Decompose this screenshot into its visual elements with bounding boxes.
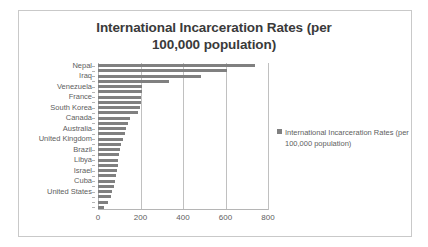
bar bbox=[98, 153, 119, 156]
y-axis-tick bbox=[92, 129, 95, 130]
bar-row bbox=[98, 184, 268, 189]
y-axis-tick bbox=[92, 134, 95, 135]
legend-item: International Incarceration Rates (per 1… bbox=[277, 127, 409, 149]
bar bbox=[98, 122, 128, 125]
bar bbox=[98, 75, 201, 78]
bar-row bbox=[98, 121, 268, 126]
bar-row bbox=[98, 158, 268, 163]
bar bbox=[98, 195, 111, 198]
chart-legend: International Incarceration Rates (per 1… bbox=[277, 127, 409, 149]
y-axis-label: United States bbox=[47, 188, 92, 196]
bar-row bbox=[98, 105, 268, 110]
y-axis-tick bbox=[92, 186, 95, 187]
bar-row bbox=[98, 168, 268, 173]
bar bbox=[98, 159, 118, 162]
bar-row bbox=[98, 110, 268, 115]
bar bbox=[98, 64, 255, 67]
bar-row bbox=[98, 79, 268, 84]
y-axis-tick bbox=[92, 207, 95, 208]
bar-row bbox=[98, 100, 268, 105]
bar-row bbox=[98, 74, 268, 79]
y-axis-label: Venezuela bbox=[57, 83, 92, 91]
bar bbox=[98, 169, 117, 172]
bar bbox=[98, 69, 227, 72]
bar-row bbox=[98, 200, 268, 205]
bar-row bbox=[98, 131, 268, 136]
y-axis-tick bbox=[92, 144, 95, 145]
bar-row bbox=[98, 152, 268, 157]
bar bbox=[98, 206, 104, 209]
x-axis-tick-label: 600 bbox=[219, 213, 232, 222]
y-axis-tick bbox=[92, 123, 95, 124]
y-axis-label: Israel bbox=[74, 167, 92, 175]
bar bbox=[98, 138, 123, 141]
bar bbox=[98, 164, 118, 167]
y-axis-tick bbox=[92, 155, 95, 156]
bar-row bbox=[98, 126, 268, 131]
chart-title: International Incarceration Rates (per 1… bbox=[49, 19, 379, 53]
x-axis-tick-label: 800 bbox=[261, 213, 274, 222]
bar-row bbox=[98, 68, 268, 73]
bar-row bbox=[98, 142, 268, 147]
x-axis-tick-label: 400 bbox=[176, 213, 189, 222]
y-axis-tick bbox=[92, 192, 95, 193]
bar bbox=[98, 174, 116, 177]
bar-row bbox=[98, 116, 268, 121]
y-axis-tick bbox=[92, 181, 95, 182]
bar-row bbox=[98, 147, 268, 152]
bar bbox=[98, 148, 120, 151]
bar bbox=[98, 90, 142, 93]
bar-row bbox=[98, 137, 268, 142]
y-axis-tick bbox=[92, 171, 95, 172]
y-axis-label: Iraq bbox=[79, 72, 92, 80]
bar bbox=[98, 143, 121, 146]
y-axis-label: Australia bbox=[63, 125, 92, 133]
bar bbox=[98, 185, 114, 188]
bar bbox=[98, 201, 108, 204]
y-axis-tick bbox=[92, 165, 95, 166]
bar-row bbox=[98, 189, 268, 194]
bar-row bbox=[98, 194, 268, 199]
y-axis-tick bbox=[92, 92, 95, 93]
bar bbox=[98, 111, 138, 114]
bar bbox=[98, 85, 142, 88]
legend-swatch-icon bbox=[277, 129, 282, 134]
bar bbox=[98, 190, 112, 193]
y-axis-tick bbox=[92, 160, 95, 161]
bar-row bbox=[98, 163, 268, 168]
y-axis-label: South Korea bbox=[50, 104, 92, 112]
y-axis-tick bbox=[92, 197, 95, 198]
chart-screenshot: International Incarceration Rates (per 1… bbox=[0, 0, 428, 247]
bar-row bbox=[98, 179, 268, 184]
y-axis-tick bbox=[92, 87, 95, 88]
y-axis-tick bbox=[92, 102, 95, 103]
y-axis-tick bbox=[92, 113, 95, 114]
bar-row bbox=[98, 63, 268, 68]
y-axis-tick bbox=[92, 202, 95, 203]
y-axis-label: United Kingdom bbox=[39, 135, 92, 143]
x-axis-tick-label: 0 bbox=[96, 213, 100, 222]
y-axis-label: Canada bbox=[66, 114, 92, 122]
y-axis-label: Nepal bbox=[72, 62, 92, 70]
y-axis-tick bbox=[92, 71, 95, 72]
x-axis-tick-label: 200 bbox=[134, 213, 147, 222]
y-axis-label: Brazil bbox=[73, 146, 92, 154]
y-axis-tick bbox=[92, 118, 95, 119]
y-axis-label: France bbox=[69, 93, 92, 101]
bar bbox=[98, 80, 169, 83]
chart-title-line-1: International Incarceration Rates (per bbox=[49, 19, 379, 36]
bar bbox=[98, 96, 141, 99]
bar-row bbox=[98, 89, 268, 94]
y-axis-tick bbox=[92, 108, 95, 109]
bar bbox=[98, 101, 141, 104]
bar bbox=[98, 180, 115, 183]
chart-frame: International Incarceration Rates (per 1… bbox=[18, 10, 412, 237]
bar bbox=[98, 127, 126, 130]
bar-row bbox=[98, 205, 268, 210]
y-axis-label: Cuba bbox=[74, 177, 92, 185]
bar-row bbox=[98, 84, 268, 89]
bar-row bbox=[98, 95, 268, 100]
y-axis-tick bbox=[92, 176, 95, 177]
y-axis-label: Libya bbox=[74, 156, 92, 164]
y-axis-tick bbox=[92, 66, 95, 67]
